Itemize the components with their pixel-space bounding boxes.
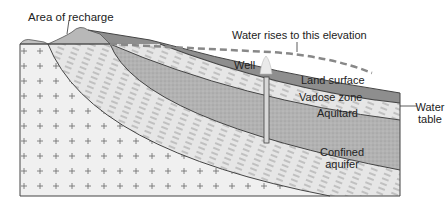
aquitard-label: Aquitard: [317, 107, 358, 119]
recharge-hill: [20, 27, 110, 44]
water-table-label: Water table: [412, 101, 448, 125]
confined-line2: aquifer: [312, 158, 372, 170]
vadose-zone-label: Vadose zone: [299, 91, 362, 103]
water-rises-label: Water rises to this elevation: [232, 29, 367, 41]
land-surface-label: Land surface: [301, 74, 365, 86]
recharge-label: Area of recharge: [28, 11, 114, 23]
water-table-line2: table: [412, 113, 448, 125]
confined-line1: Confined: [312, 146, 372, 158]
water-table-line1: Water: [412, 101, 448, 113]
confined-aquifer-label: Confined aquifer: [312, 146, 372, 170]
well-label: Well: [234, 59, 255, 71]
